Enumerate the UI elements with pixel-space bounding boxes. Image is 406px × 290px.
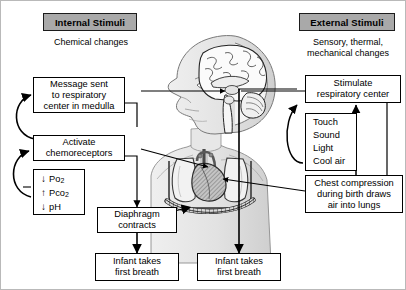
external-stimuli-banner-label: External Stimuli bbox=[310, 17, 383, 28]
box-chest-compression: Chest compression during birth draws air… bbox=[305, 175, 403, 213]
arrow-up-icon: ↑ bbox=[41, 187, 49, 199]
brain-sagittal-section bbox=[199, 45, 267, 133]
gas-row-pco2: ↑Pco2 bbox=[41, 187, 84, 201]
box-activate-chemoreceptors: Activate chemoreceptors bbox=[33, 135, 125, 161]
aorta-chemoreceptor-bodies bbox=[197, 152, 215, 179]
flow-message-to-diaphragm bbox=[125, 103, 137, 207]
box-message-sent-to-respiratory-center: Message sent to respiratory center in me… bbox=[33, 77, 125, 113]
internal-stimuli-banner-label: Internal Stimuli bbox=[55, 17, 125, 28]
internal-stimuli-caption: Chemical changes bbox=[31, 37, 151, 48]
arrow-down-icon: ↓ bbox=[41, 173, 49, 185]
gas-row-ph: ↓pH bbox=[41, 201, 84, 213]
lungs bbox=[172, 158, 248, 202]
box-gas-changes: ↓Po2 ↑Pco2 ↓pH bbox=[33, 169, 85, 215]
leader-chemoreceptors-to-aorta bbox=[141, 149, 208, 167]
box-sensory-stimuli-list: Touch Sound Light Cool air bbox=[305, 113, 357, 171]
flow-stimulate-to-breath bbox=[239, 89, 297, 253]
internal-stimuli-banner: Internal Stimuli bbox=[43, 13, 137, 31]
diaphragm bbox=[165, 198, 255, 212]
external-stimuli-banner: External Stimuli bbox=[299, 13, 395, 31]
flow-sensory-to-stimulate bbox=[287, 105, 303, 163]
arrow-down-icon-2: ↓ bbox=[41, 201, 49, 213]
gas-row-po2: ↓Po2 bbox=[41, 173, 84, 187]
figure-canvas: Internal Stimuli Chemical changes Messag… bbox=[0, 0, 406, 290]
external-stimuli-caption: Sensory, thermal, mechanical changes bbox=[291, 37, 405, 59]
box-diaphragm-contracts: Diaphragm contracts bbox=[97, 207, 177, 233]
heart bbox=[192, 163, 226, 201]
leader-chest-compression-to-thorax bbox=[223, 179, 305, 191]
box-infant-takes-first-breath-right: Infant takes first breath bbox=[197, 253, 281, 281]
box-stimulate-respiratory-center: Stimulate respiratory center bbox=[305, 75, 401, 103]
feedback-loop-lower bbox=[14, 151, 32, 197]
infant-thorax bbox=[151, 127, 271, 263]
trachea-bronchi bbox=[195, 149, 214, 177]
box-infant-takes-first-breath-left: Infant takes first breath bbox=[95, 253, 179, 281]
infant-head-profile bbox=[168, 36, 275, 134]
rib-cage bbox=[169, 161, 251, 208]
